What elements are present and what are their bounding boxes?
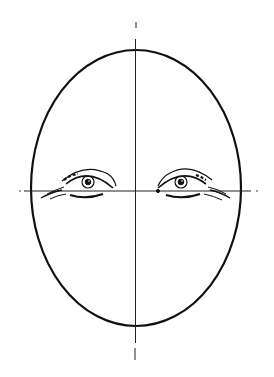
- face-proportion-diagram: Face proportion guide: eye placement: [0, 0, 274, 377]
- left-eye: [41, 169, 116, 199]
- horizontal-dot-left: [19, 190, 21, 192]
- horizontal-dot-right: [256, 190, 258, 192]
- diagram-svg: [0, 0, 274, 377]
- right-eye: [156, 169, 230, 200]
